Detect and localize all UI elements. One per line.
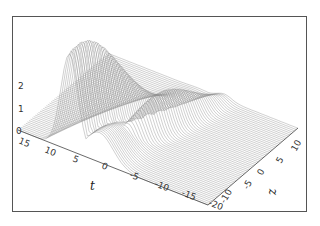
ttick-m5: -5 [128,170,140,183]
ttick-10: 10 [43,145,58,159]
t-axis-label: t [90,179,95,193]
ztick-0: 0 [255,167,267,177]
ztick-5: 5 [274,155,286,165]
ztick-10: 10 [289,138,304,153]
ttick-15: 15 [17,136,31,150]
z-axis-label: z [265,188,279,196]
vtick-0: 0 [16,126,22,136]
ttick-5: 5 [71,154,80,165]
ztick-m10: -10 [218,187,234,205]
ttick-0: 0 [100,161,109,173]
vtick-2: 2 [18,81,24,91]
surface-plot: 2 1 0 15 10 5 0 -5 -10 -15 -20 t -10 -5 … [0,0,320,226]
ttick-m10: -10 [153,179,171,194]
ztick-m5: -5 [241,178,254,191]
vtick-1: 1 [18,104,24,114]
